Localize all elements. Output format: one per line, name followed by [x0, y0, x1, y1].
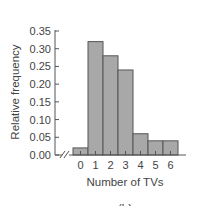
- x-tick-label: 6: [167, 159, 173, 171]
- bar-1: [88, 42, 103, 155]
- y-tick-label: 0.15: [30, 96, 51, 108]
- x-tick-label: 0: [77, 159, 83, 171]
- y-tick-label: 0.00: [30, 149, 51, 161]
- y-tick-label: 0.35: [30, 25, 51, 37]
- x-tick-label: 4: [137, 159, 143, 171]
- y-tick-label: 0.05: [30, 131, 51, 143]
- bar-3: [118, 70, 133, 155]
- figure-caption: (b): [118, 202, 132, 206]
- x-tick-label: 3: [122, 159, 128, 171]
- y-axis-label: Relative frequency: [9, 44, 21, 139]
- y-tick-label: 0.30: [30, 43, 51, 55]
- y-tick-label: 0.25: [30, 60, 51, 72]
- bars: [73, 42, 178, 155]
- x-tick-label: 5: [152, 159, 158, 171]
- x-tick-label: 1: [92, 159, 98, 171]
- bar-2: [103, 56, 118, 155]
- histogram-chart: 0.000.050.100.150.200.250.300.35 0123456…: [0, 0, 201, 206]
- y-tick-label: 0.20: [30, 78, 51, 90]
- x-tick-label: 2: [107, 159, 113, 171]
- x-axis-label: Number of TVs: [86, 176, 163, 188]
- y-tick-label: 0.10: [30, 114, 51, 126]
